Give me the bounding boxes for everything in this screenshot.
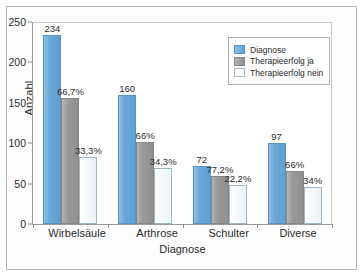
y-axis-tick-label: 250 — [0, 16, 26, 28]
y-axis-tick-label: 200 — [0, 56, 26, 68]
bar-value-label: 72 — [197, 154, 208, 165]
legend-label: Therapieerfolg ja — [250, 56, 314, 66]
legend-item[interactable]: Therapieerfolg ja — [234, 56, 323, 66]
x-axis-tick-mark — [257, 224, 258, 228]
bar[interactable]: 34,3% — [154, 168, 172, 224]
bar[interactable]: 97 — [268, 143, 286, 224]
bar-group: 23466,7%33,3% — [43, 22, 97, 224]
chart-legend: DiagnoseTherapieerfolg jaTherapieerfolg … — [228, 37, 330, 85]
bar-slot: 66% — [136, 22, 154, 224]
bar-value-label: 34% — [303, 175, 322, 186]
x-axis-title: Diagnose — [33, 243, 332, 255]
x-axis-category-label: Diverse — [279, 227, 316, 239]
x-axis-category-label: Wirbelsäule — [48, 227, 105, 239]
x-axis-category-label: Arthrose — [136, 227, 178, 239]
x-axis-tick-mark — [33, 224, 34, 228]
bar[interactable]: 234 — [43, 35, 61, 224]
legend-item[interactable]: Therapieerfolg nein — [234, 68, 323, 78]
bar-value-label: 33,3% — [75, 145, 102, 156]
bar-slot: 66,7% — [61, 22, 79, 224]
y-axis-tick-label: 100 — [0, 137, 26, 149]
legend-swatch-icon — [234, 68, 245, 77]
x-axis-category-labels: WirbelsäuleArthroseSchulterDiverse — [33, 227, 332, 239]
bar[interactable]: 66% — [136, 142, 154, 224]
x-axis-tick-mark — [183, 224, 184, 228]
x-axis-tick-mark — [332, 224, 333, 228]
bar[interactable]: 33,3% — [79, 157, 97, 224]
legend-label: Therapieerfolg nein — [250, 68, 323, 78]
bar[interactable]: 22,2% — [229, 185, 247, 224]
bar[interactable]: 66% — [286, 171, 304, 224]
x-axis-category-label: Schulter — [208, 227, 248, 239]
bar-slot: 33,3% — [79, 22, 97, 224]
bar-value-label: 66% — [285, 159, 304, 170]
y-axis-ticks: 050100150200250 — [0, 22, 32, 225]
bar-value-label: 22,2% — [224, 173, 251, 184]
y-axis-tick-label: 150 — [0, 97, 26, 109]
bar-slot: 34,3% — [154, 22, 172, 224]
bar-slot: 160 — [118, 22, 136, 224]
bar[interactable]: 34% — [304, 187, 322, 224]
bar-slot: 72 — [193, 22, 211, 224]
bar[interactable]: 160 — [118, 95, 136, 224]
chart-figure: Anzahl 050100150200250 23466,7%33,3%1606… — [0, 0, 363, 276]
bar-value-label: 97 — [271, 131, 282, 142]
bar-value-label: 66% — [136, 130, 155, 141]
y-axis-tick-label: 0 — [0, 218, 26, 230]
bar[interactable]: 66,7% — [61, 98, 79, 224]
y-axis-tick-label: 50 — [0, 178, 26, 190]
legend-swatch-icon — [234, 57, 245, 66]
legend-swatch-icon — [234, 45, 245, 54]
bar-value-label: 234 — [44, 23, 60, 34]
bar-value-label: 34,3% — [150, 156, 177, 167]
legend-label: Diagnose — [250, 45, 286, 55]
bar-slot: 77,2% — [211, 22, 229, 224]
x-axis-tick-mark — [108, 224, 109, 228]
bar-slot: 234 — [43, 22, 61, 224]
bar-value-label: 160 — [119, 83, 135, 94]
legend-item[interactable]: Diagnose — [234, 45, 323, 55]
bar-group: 16066%34,3% — [118, 22, 172, 224]
